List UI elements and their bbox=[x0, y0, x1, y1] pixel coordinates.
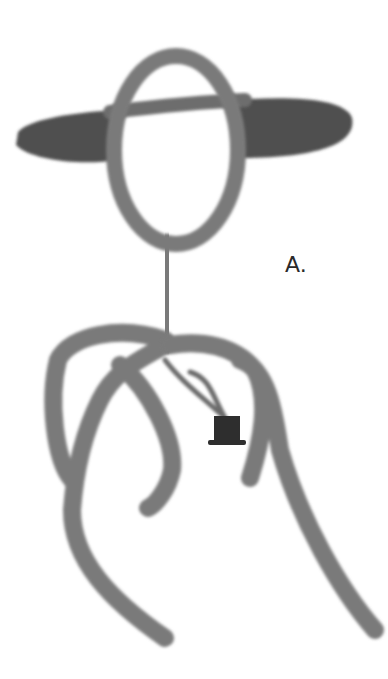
stick-figure-illustration bbox=[0, 0, 388, 679]
pendant bbox=[208, 416, 246, 445]
head bbox=[114, 56, 238, 244]
pendant-cord bbox=[165, 360, 225, 418]
hat-brim bbox=[16, 98, 352, 162]
figure-label: A. bbox=[285, 252, 307, 277]
left-arm bbox=[53, 333, 172, 638]
figure-drawing bbox=[0, 0, 388, 679]
right-arm bbox=[170, 343, 375, 630]
neck bbox=[166, 242, 168, 345]
